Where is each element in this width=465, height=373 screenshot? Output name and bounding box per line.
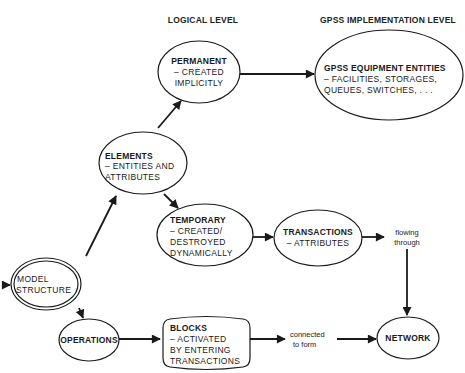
operations-title: OPERATIONS bbox=[60, 335, 118, 345]
model-structure-inner-ellipse bbox=[14, 261, 78, 307]
node-blocks: BLOCKS – ACTIVATED BY ENTERING TRANSACTI… bbox=[163, 317, 250, 370]
blocks-line-1: – ACTIVATED bbox=[170, 334, 226, 344]
blocks-line-3: TRANSACTIONS bbox=[170, 356, 240, 366]
model-structure-line-2: STRUCTURE bbox=[16, 285, 71, 295]
elements-title: ELEMENTS bbox=[105, 151, 153, 161]
connected-to-form-label-1: connected bbox=[290, 330, 325, 339]
edge-elements-to-temporary bbox=[164, 194, 178, 208]
flowing-through-label-2: through bbox=[394, 238, 419, 247]
edge-model-structure-to-elements bbox=[86, 196, 116, 256]
equipment-line-2: QUEUES, SWITCHES, . . . bbox=[324, 85, 433, 95]
network-title: NETWORK bbox=[385, 333, 431, 343]
transactions-title: TRANSACTIONS bbox=[283, 227, 353, 237]
gpss-model-structure-diagram: LOGICAL LEVEL GPSS IMPLEMENTATION LEVEL … bbox=[0, 0, 465, 373]
flowing-through-label-1: flowing bbox=[395, 228, 418, 237]
node-equipment-entities: GPSS EQUIPMENT ENTITIES – FACILITIES, ST… bbox=[315, 30, 463, 120]
equipment-title: GPSS EQUIPMENT ENTITIES bbox=[324, 63, 446, 73]
node-temporary: TEMPORARY – CREATED/ DESTROYED DYNAMICAL… bbox=[157, 204, 253, 266]
equipment-line-1: – FACILITIES, STORAGES, bbox=[324, 74, 437, 84]
node-elements: ELEMENTS – ENTITIES AND ATTRIBUTES bbox=[99, 132, 187, 194]
transactions-line-1: – ATTRIBUTES bbox=[287, 238, 350, 248]
node-transactions: TRANSACTIONS – ATTRIBUTES bbox=[274, 210, 362, 266]
permanent-title: PERMANENT bbox=[171, 56, 227, 66]
temporary-line-2: DESTROYED bbox=[170, 237, 226, 247]
implementation-level-header: GPSS IMPLEMENTATION LEVEL bbox=[320, 15, 456, 25]
permanent-line-1: – CREATED bbox=[174, 67, 224, 77]
connected-to-form-label-2: to form bbox=[293, 340, 316, 349]
logical-level-header: LOGICAL LEVEL bbox=[168, 15, 238, 25]
node-model-structure: MODEL STRUCTURE bbox=[11, 258, 81, 310]
blocks-line-2: BY ENTERING bbox=[170, 345, 231, 355]
node-operations: OPERATIONS bbox=[59, 319, 119, 361]
edge-model-structure-to-operations bbox=[79, 308, 83, 318]
edge-elements-to-permanent bbox=[158, 101, 181, 128]
temporary-title: TEMPORARY bbox=[170, 215, 226, 225]
node-permanent: PERMANENT – CREATED IMPLICITLY bbox=[158, 41, 240, 103]
blocks-title: BLOCKS bbox=[170, 323, 207, 333]
model-structure-line-1: MODEL bbox=[17, 274, 49, 284]
temporary-line-1: – CREATED/ bbox=[170, 226, 223, 236]
elements-line-2: ATTRIBUTES bbox=[105, 172, 160, 182]
permanent-line-2: IMPLICITLY bbox=[175, 78, 224, 88]
elements-line-1: – ENTITIES AND bbox=[105, 161, 174, 171]
node-network: NETWORK bbox=[377, 317, 439, 359]
temporary-line-3: DYNAMICALLY bbox=[170, 248, 233, 258]
